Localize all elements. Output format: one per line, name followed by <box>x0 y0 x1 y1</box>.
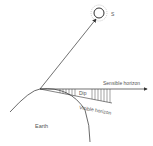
earth-label: Earth <box>35 123 48 129</box>
visible-horizon-label: Visible horizon <box>79 104 112 116</box>
sun-ray-line <box>40 19 96 89</box>
sun-icon <box>91 5 107 21</box>
sun-label: S <box>111 11 115 17</box>
sensible-horizon-label: Sensible horizon <box>103 80 140 86</box>
dip-diagram: S Sensible horizon Dip Visible horizon E… <box>0 0 153 146</box>
dip-label: Dip <box>79 90 87 96</box>
